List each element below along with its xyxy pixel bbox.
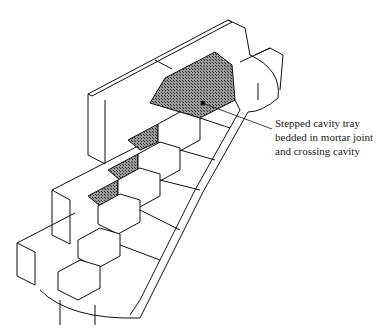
callout-label: Stepped cavity tray bedded in mortar joi… (275, 116, 373, 158)
callout-line-1: Stepped cavity tray (275, 116, 373, 130)
callout-line-2: bedded in mortar joint (275, 130, 373, 144)
callout-line-3: and crossing cavity (275, 144, 373, 158)
brickwork-diagram (0, 0, 382, 330)
